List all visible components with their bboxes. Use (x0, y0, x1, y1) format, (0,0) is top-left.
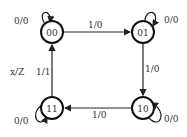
svg-text:00: 00 (46, 28, 58, 38)
svg-text:0/0: 0/0 (14, 16, 29, 26)
state-01: 01 (132, 21, 154, 43)
svg-text:0/0: 0/0 (14, 116, 29, 126)
transition-10-11: 1/0 (65, 108, 132, 120)
state-diagram: 1/0 1/0 1/0 1/1 x/Z 0/0 0/0 0/0 0/0 00 0… (0, 0, 187, 137)
state-10: 10 (132, 97, 154, 119)
svg-text:01: 01 (137, 28, 148, 38)
svg-text:11: 11 (46, 104, 57, 114)
legend-label: x/Z (10, 67, 24, 77)
transition-01-10: 1/0 (143, 43, 160, 95)
svg-text:10: 10 (137, 104, 149, 114)
svg-text:1/1: 1/1 (36, 67, 50, 77)
svg-text:0/0: 0/0 (164, 114, 179, 124)
state-00: 00 (41, 21, 63, 43)
svg-text:1/0: 1/0 (92, 110, 107, 120)
state-11: 11 (41, 97, 63, 119)
svg-text:1/0: 1/0 (88, 20, 103, 30)
svg-text:0/0: 0/0 (164, 15, 179, 25)
transition-00-01: 1/0 (63, 20, 130, 32)
transition-11-00: 1/1 (36, 45, 52, 97)
svg-text:1/0: 1/0 (145, 64, 160, 74)
